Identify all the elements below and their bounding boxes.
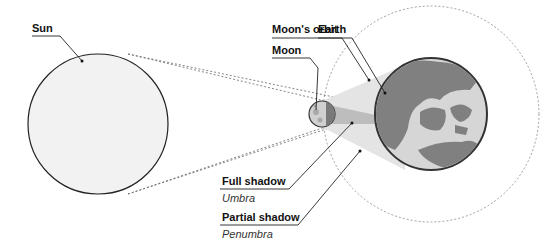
label-earth: Earth [318,23,346,35]
sun [28,54,168,194]
earth [375,58,487,170]
label-full-shadow: Full shadow [222,175,286,187]
solar-eclipse-diagram: Sun Moon's orbit Moon Earth Full shadow … [0,0,558,252]
leader-moon [272,58,318,110]
label-penumbra: Penumbra [222,228,273,240]
leader-sun [32,36,82,61]
label-partial-shadow: Partial shadow [222,211,300,223]
label-umbra: Umbra [222,192,255,204]
label-sun: Sun [32,22,53,34]
label-moon: Moon [272,44,302,56]
